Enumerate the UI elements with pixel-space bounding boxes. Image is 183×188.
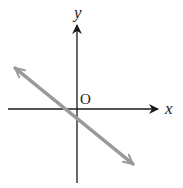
coordinate-diagram: y x O [0, 0, 183, 188]
graph-line [15, 68, 133, 164]
origin-label: O [80, 91, 91, 107]
y-axis-label: y [72, 3, 82, 22]
x-axis-label: x [164, 99, 173, 118]
